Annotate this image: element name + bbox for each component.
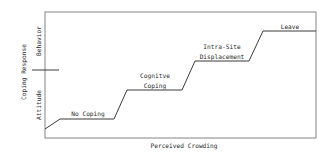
y-region-label-behavior: Behavior	[35, 26, 42, 56]
coping-response-diagram: No Coping Cognitve Coping Intra-Site Dis…	[0, 0, 333, 157]
y-region-label-attitude: Attitude	[35, 90, 42, 120]
stage-label-cognitive-line2: Coping	[144, 82, 167, 90]
y-axis-label: Coping Response	[20, 44, 28, 100]
x-axis-label: Perceived Crowding	[150, 142, 217, 150]
stage-label-no-coping: No Coping	[71, 110, 105, 118]
stage-label-displacement-line1: Intra-Site	[203, 43, 241, 50]
diagram-canvas: No Coping Cognitve Coping Intra-Site Dis…	[0, 0, 333, 157]
stage-label-displacement-line2: Displacement	[200, 53, 245, 61]
stage-label-cognitive-line1: Cognitve	[140, 72, 170, 80]
stage-label-leave: Leave	[281, 23, 300, 30]
